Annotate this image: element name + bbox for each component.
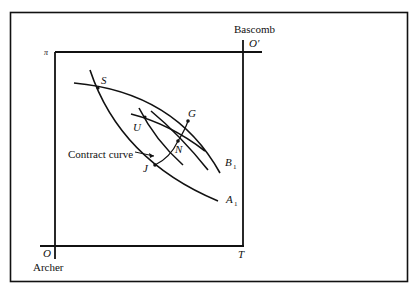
label-pi: π <box>44 48 49 57</box>
label-u: U <box>133 121 142 133</box>
point-g <box>186 119 190 123</box>
label-g: G <box>188 107 196 119</box>
label-t: T <box>238 248 245 260</box>
svg-text:B: B <box>225 156 232 168</box>
indifference-curve-bascomb-u <box>131 114 205 151</box>
point-u <box>143 115 146 118</box>
label-archer: Archer <box>33 261 64 273</box>
point-j <box>153 163 157 167</box>
label-b1: B 1 <box>225 156 237 171</box>
label-a1: A 1 <box>225 193 238 208</box>
svg-text:1: 1 <box>234 200 238 208</box>
label-contract-curve: Contract curve <box>68 148 133 160</box>
indifference-curve-a1 <box>90 70 218 201</box>
point-s <box>96 86 99 89</box>
edgeworth-box-diagram: π Bascomb O′ O Archer T S G U N J Contra… <box>0 0 417 299</box>
svg-text:A: A <box>225 193 233 205</box>
label-bascomb: Bascomb <box>234 23 275 35</box>
label-j: J <box>143 162 149 174</box>
label-s: S <box>101 74 107 86</box>
contract-curve <box>155 121 188 165</box>
label-origin-archer: O <box>43 247 51 259</box>
label-origin-bascomb: O′ <box>249 37 260 49</box>
label-n: N <box>174 143 183 155</box>
svg-text:1: 1 <box>233 163 237 171</box>
